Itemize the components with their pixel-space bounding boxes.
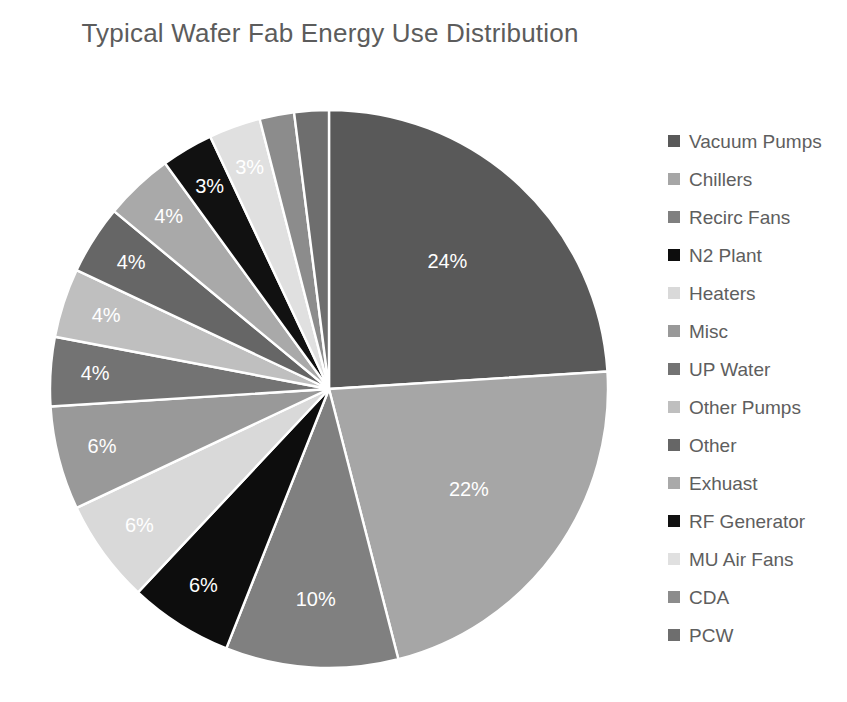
legend-swatch-icon [668, 135, 680, 147]
legend-swatch-icon [668, 401, 680, 413]
pie-slice-label: 6% [189, 574, 218, 596]
legend-swatch-icon [668, 211, 680, 223]
pie-slice-label: 22% [449, 478, 489, 500]
pie-slice-label: 6% [125, 514, 154, 536]
legend-item-label: MU Air Fans [689, 550, 794, 569]
legend-item[interactable]: Misc [660, 312, 847, 350]
pie-svg: 24%22%10%6%6%6%4%4%4%4%3%3% [48, 108, 610, 670]
legend-item-label: Other [689, 436, 737, 455]
legend-swatch-icon [668, 553, 680, 565]
legend-swatch-icon [668, 439, 680, 451]
pie-slice-label: 24% [427, 250, 467, 272]
legend-item-label: UP Water [689, 360, 770, 379]
legend-item[interactable]: MU Air Fans [660, 540, 847, 578]
legend-item[interactable]: Exhuast [660, 464, 847, 502]
legend-swatch-icon [668, 591, 680, 603]
legend-item[interactable]: UP Water [660, 350, 847, 388]
legend-swatch-icon [668, 363, 680, 375]
pie-slice-label: 3% [195, 175, 224, 197]
chart-title: Typical Wafer Fab Energy Use Distributio… [0, 18, 660, 49]
legend-item[interactable]: RF Generator [660, 502, 847, 540]
pie-slice-group [50, 110, 608, 668]
legend-swatch-icon [668, 477, 680, 489]
legend-item[interactable]: Other [660, 426, 847, 464]
pie-slice-label: 4% [92, 304, 121, 326]
legend-item[interactable]: Other Pumps [660, 388, 847, 426]
legend-item-label: Exhuast [689, 474, 758, 493]
pie-plot-area: 24%22%10%6%6%6%4%4%4%4%3%3% [48, 108, 610, 670]
legend-item[interactable]: Vacuum Pumps [660, 122, 847, 160]
legend-item[interactable]: PCW [660, 616, 847, 654]
chart-legend: Vacuum PumpsChillersRecirc FansN2 PlantH… [660, 122, 847, 654]
legend-swatch-icon [668, 325, 680, 337]
legend-item-label: RF Generator [689, 512, 805, 531]
pie-slice-label: 10% [296, 588, 336, 610]
legend-swatch-icon [668, 249, 680, 261]
pie-chart-figure: Typical Wafer Fab Energy Use Distributio… [0, 0, 847, 702]
legend-swatch-icon [668, 515, 680, 527]
pie-slice-label: 6% [88, 435, 117, 457]
legend-item[interactable]: CDA [660, 578, 847, 616]
legend-item[interactable]: Heaters [660, 274, 847, 312]
pie-slice-label: 4% [154, 205, 183, 227]
pie-slice-label: 4% [81, 362, 110, 384]
legend-item-label: Misc [689, 322, 728, 341]
legend-item-label: Heaters [689, 284, 756, 303]
legend-item-label: Other Pumps [689, 398, 801, 417]
legend-item-label: CDA [689, 588, 729, 607]
legend-item-label: Recirc Fans [689, 208, 790, 227]
legend-item-label: N2 Plant [689, 246, 762, 265]
legend-item[interactable]: Chillers [660, 160, 847, 198]
legend-item[interactable]: N2 Plant [660, 236, 847, 274]
pie-slice-label: 3% [235, 156, 264, 178]
legend-item-label: Vacuum Pumps [689, 132, 822, 151]
legend-item[interactable]: Recirc Fans [660, 198, 847, 236]
legend-swatch-icon [668, 287, 680, 299]
pie-slice-label: 4% [117, 251, 146, 273]
pie-slice[interactable] [329, 110, 607, 389]
legend-swatch-icon [668, 173, 680, 185]
legend-item-label: PCW [689, 626, 733, 645]
legend-swatch-icon [668, 629, 680, 641]
legend-item-label: Chillers [689, 170, 752, 189]
